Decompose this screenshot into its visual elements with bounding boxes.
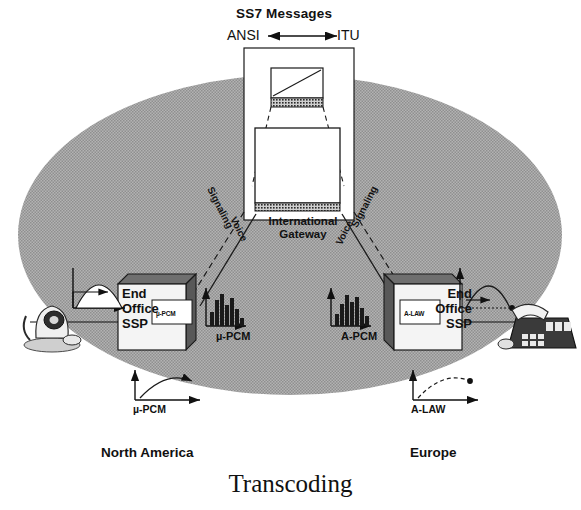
eo-right-line3: SSP [446, 316, 472, 331]
a-law-curve-label: A-LAW [411, 403, 445, 415]
diagram-canvas: SS7 Messages ANSI ITU International Gate… [0, 0, 581, 510]
ansi-label: ANSI [227, 27, 260, 43]
end-office-ssp-right-label: End Office SSP [424, 286, 472, 331]
eo-right-line1: End [447, 286, 472, 301]
ss7-messages-title: SS7 Messages [236, 6, 332, 21]
right-node-inset-label: A-LAW [404, 310, 424, 317]
gateway-label-line2: Gateway [279, 228, 326, 240]
gateway-box [255, 128, 340, 211]
a-pcm-label: A-PCM [341, 330, 377, 342]
eo-left-line1: End [122, 286, 147, 301]
diagram-vector-layer [0, 0, 581, 510]
eo-right-line2: Office [435, 301, 472, 316]
eo-left-line3: SSP [122, 316, 148, 331]
mu-law-curve-label: µ-PCM [133, 403, 166, 415]
itu-label: ITU [337, 27, 360, 43]
eo-left-line2: Office [122, 301, 159, 316]
end-office-ssp-left-label: End Office SSP [122, 286, 170, 331]
gateway-label-line1: International [268, 215, 337, 227]
figure-caption: Transcoding [0, 470, 581, 498]
region-label-europe: Europe [410, 445, 457, 460]
left-node-inset-label: µ-PCM [156, 310, 175, 317]
region-label-north-america: North America [101, 445, 194, 460]
gateway-switch-icon [271, 68, 323, 107]
mu-pcm-label: µ-PCM [216, 330, 250, 342]
